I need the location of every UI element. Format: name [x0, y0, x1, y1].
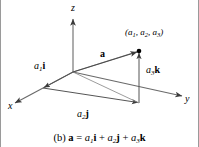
a1i-label: a1i [34, 61, 45, 71]
figure-caption: (b) a = a1i + a2j + a3k [1, 132, 198, 143]
paren-close: ) [160, 27, 163, 37]
y-axis-label: y [185, 94, 189, 104]
caption-term2-sub: 2 [113, 137, 117, 145]
caption-equals: = [76, 132, 82, 143]
coord-a3-sub: 3 [157, 31, 160, 38]
caption-plus-1: + [99, 132, 105, 143]
caption-vector: a [68, 132, 73, 143]
a3k-sub: 3 [151, 69, 155, 77]
caption-plus-2: + [122, 132, 128, 143]
caption-term1-sub: 1 [90, 137, 94, 145]
vector-diagram-figure: z x y (a1, a2, a3) a a1i a2j a3k (b) a =… [0, 0, 199, 147]
caption-term1-unit: i [93, 132, 96, 143]
a2j-label: a2j [77, 109, 89, 119]
vector-a-arrow [73, 52, 137, 72]
z-axis-label: z [71, 3, 75, 13]
base-right-edge-line [139, 90, 161, 103]
vector-a-label: a [100, 49, 105, 59]
a1i-component-arrow [44, 72, 73, 88]
caption-term3-sub: 3 [136, 137, 140, 145]
a3k-unit: k [155, 64, 161, 75]
terminal-point-label: (a1, a2, a3) [125, 28, 163, 37]
y-axis-line [73, 72, 182, 96]
a3k-label: a3k [146, 65, 160, 75]
caption-term2-unit: j [116, 132, 120, 143]
caption-part-label: (b) [53, 132, 65, 143]
diagram-canvas [1, 0, 199, 147]
base-diagonal-line [73, 72, 139, 103]
coord-a2-sub: 2 [145, 31, 148, 38]
a2j-sub: 2 [82, 113, 86, 121]
a2j-unit: j [86, 108, 89, 119]
terminal-point-dot [137, 49, 142, 54]
x-axis-label: x [8, 101, 12, 111]
caption-term3-unit: k [140, 132, 146, 143]
coord-a1: a [128, 27, 133, 37]
coord-a1-sub: 1 [133, 31, 136, 38]
a1i-sub: 1 [39, 65, 43, 73]
a2j-component-arrow [43, 88, 138, 103]
